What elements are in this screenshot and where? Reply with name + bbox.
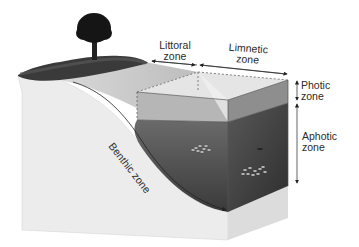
fish-single <box>257 148 263 150</box>
littoral-zone-label: Littoral zone <box>150 40 200 62</box>
tree-icon <box>76 13 112 60</box>
aphotic-line2: zone <box>302 142 337 153</box>
aphotic-zone-label: Aphotic zone <box>302 131 337 153</box>
photic-line2: zone <box>301 91 330 102</box>
photic-zone-label: Photic zone <box>301 80 330 102</box>
limnetic-zone-label: Limnetic zone <box>219 41 276 67</box>
littoral-line2: zone <box>150 51 200 62</box>
lake-zones-diagram <box>0 0 359 247</box>
